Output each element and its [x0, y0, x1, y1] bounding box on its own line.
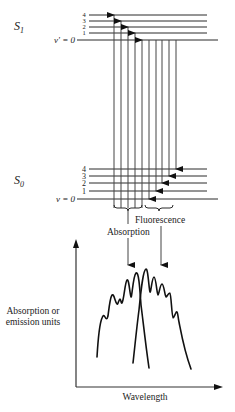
absorption-label: Absorption: [107, 227, 150, 237]
fluorescence-transitions: [149, 40, 176, 199]
fluorescence-brace: [145, 205, 173, 211]
x-axis-label: Wavelength: [122, 392, 167, 402]
spectrum-plot: Absorption or emission units Wavelength: [6, 239, 223, 402]
x-axis-arrowhead: [214, 384, 223, 390]
s1-v0-label: v' = 0: [54, 35, 75, 45]
s1-level-1-label: 1: [82, 29, 85, 36]
lower-state-s0: S0 4 3 2 1 v = 0: [14, 165, 218, 204]
jablonski-diagram: S1 4 3 2 1 v' = 0 S0 4 3 2 1 v = 0: [0, 0, 235, 412]
y-axis-arrowhead: [73, 239, 79, 248]
s0-label: S0: [14, 173, 24, 189]
absorption-transitions: [114, 15, 142, 208]
s1-label: S1: [14, 19, 24, 35]
y-axis-label-line1: Absorption or: [6, 306, 60, 316]
s0-v0-label: v = 0: [56, 194, 76, 204]
upper-state-s1: S1 4 3 2 1 v' = 0: [14, 11, 218, 45]
brackets: Fluorescence Absorption: [107, 205, 185, 265]
y-axis-label-line2: emission units: [6, 317, 61, 327]
fluorescence-label: Fluorescence: [135, 215, 185, 225]
s0-level-1-label: 1: [82, 187, 86, 196]
fluorescence-curve: [133, 269, 191, 369]
